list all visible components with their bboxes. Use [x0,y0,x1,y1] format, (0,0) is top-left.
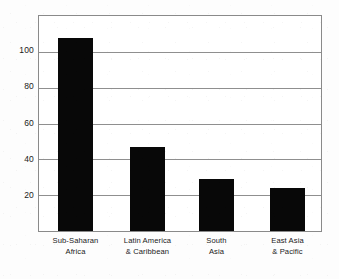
ytick-label-80: 80 [4,82,34,91]
xcat-label-east-asia-pacific: East Asia & Pacific [251,236,324,257]
bar-south-asia [199,179,234,231]
xcat-line-2: & Pacific [251,247,324,258]
xcat-line-2: Africa [35,247,116,258]
ytick-label-40: 40 [4,155,34,164]
xcat-label-sub-saharan-africa: Sub-Saharan Africa [35,236,116,257]
xcat-label-south-asia: South Asia [182,236,251,257]
bar-sub-saharan-africa [58,38,93,232]
plot-area [38,15,322,232]
xcat-line-1: South [206,236,226,245]
bar-east-asia-pacific [270,188,305,231]
xcat-line-2: Asia [182,247,251,258]
xcat-line-1: East Asia [271,236,304,245]
ytick-label-60: 60 [4,119,34,128]
ytick-label-100: 100 [4,46,34,55]
bar-chart: 100 80 60 40 20 Sub-Saharan Africa Latin… [0,0,339,279]
ytick-label-20: 20 [4,191,34,200]
xcat-line-1: Sub-Saharan [53,236,99,245]
xcat-line-2: & Caribbean [105,247,190,258]
xcat-label-latin-america-caribbean: Latin America & Caribbean [105,236,190,257]
xcat-line-1: Latin America [124,236,171,245]
bar-latin-america-caribbean [130,147,165,231]
